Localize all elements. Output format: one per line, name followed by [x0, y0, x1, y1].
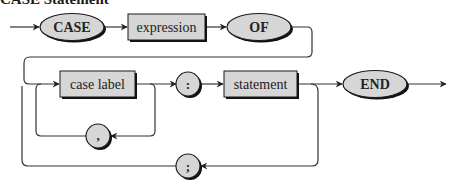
node-colon: :	[176, 72, 202, 98]
node-case-keyword: CASE	[40, 14, 106, 43]
node-colon-label: :	[186, 77, 190, 92]
node-case-label: CASE	[53, 20, 90, 35]
node-expression: expression	[128, 14, 207, 42]
node-case-label-text: case label	[70, 77, 125, 92]
node-comma-label: ,	[96, 128, 99, 143]
node-semicolon: ;	[176, 154, 202, 180]
syntax-diagram: CASE expression OF case label : statemen…	[0, 0, 455, 192]
node-of-label: OF	[249, 20, 268, 35]
node-statement-label: statement	[234, 77, 288, 92]
node-case-label: case label	[60, 71, 137, 99]
node-comma: ,	[86, 124, 112, 150]
node-semicolon-label: ;	[186, 159, 190, 174]
node-end-label: END	[360, 77, 390, 92]
node-expression-label: expression	[137, 20, 197, 35]
node-of-keyword: OF	[227, 14, 293, 43]
node-end-keyword: END	[343, 71, 409, 100]
node-statement: statement	[224, 71, 299, 99]
